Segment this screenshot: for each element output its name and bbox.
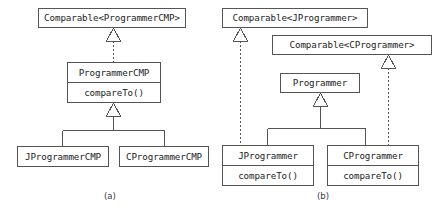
class-member-programmercmp-compareto: compareTo() [68, 82, 160, 102]
class-member-cprogrammer-compareto: compareTo() [328, 165, 418, 185]
panel-caption-b: (b) [317, 191, 329, 201]
relation-jprogrammer-realizes-comparable [234, 28, 248, 145]
class-box-comparable-jprogrammer[interactable]: Comparable<JProgrammer> [222, 8, 368, 28]
class-box-jprogrammer[interactable]: JProgrammer compareTo() [222, 145, 314, 186]
class-box-cprogrammer[interactable]: CProgrammer compareTo() [327, 145, 419, 186]
class-box-programmer[interactable]: Programmer [280, 73, 360, 93]
class-box-programmercmp[interactable]: ProgrammerCMP compareTo() [67, 62, 161, 103]
class-name-cprogrammer: CProgrammer [328, 146, 418, 165]
class-name-cprogrammercmp: CProgrammerCMP [120, 147, 208, 166]
panel-caption-a: (a) [104, 191, 116, 201]
class-box-cprogrammercmp[interactable]: CProgrammerCMP [119, 146, 209, 167]
class-name-jprogrammer: JProgrammer [223, 146, 313, 165]
relation-programmercmp-realizes-comparable [107, 28, 121, 62]
class-box-comparable-cprogrammer[interactable]: Comparable<CProgrammer> [272, 35, 432, 55]
class-name-comparable-jprogrammer: Comparable<JProgrammer> [223, 9, 367, 27]
uml-diagram-figure: Comparable<ProgrammerCMP> ProgrammerCMP … [0, 0, 439, 211]
class-name-programmer: Programmer [281, 74, 359, 92]
relation-subclasses-extend-programmer [268, 93, 366, 145]
relation-cprogrammer-realizes-comparable [382, 55, 396, 145]
class-box-comparable-programmercmp[interactable]: Comparable<ProgrammerCMP> [38, 8, 186, 28]
relation-subclasses-extend-programmercmp [63, 103, 165, 146]
class-name-comparable-cprogrammer: Comparable<CProgrammer> [273, 36, 431, 54]
class-member-jprogrammer-compareto: compareTo() [223, 165, 313, 185]
class-name-programmercmp: ProgrammerCMP [68, 63, 160, 82]
class-name-jprogrammercmp: JProgrammerCMP [18, 147, 108, 166]
class-box-jprogrammercmp[interactable]: JProgrammerCMP [17, 146, 109, 167]
class-name-comparable-programmercmp: Comparable<ProgrammerCMP> [39, 9, 185, 27]
